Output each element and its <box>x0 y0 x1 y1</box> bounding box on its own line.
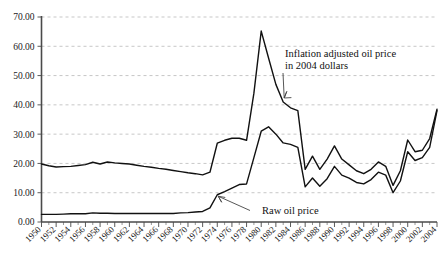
y-tick-label: 50.00 <box>13 71 35 81</box>
y-tick-label: 40.00 <box>13 100 35 110</box>
oil-price-chart: 0.0010.0020.0030.0040.0050.0060.0070.00 … <box>0 0 442 275</box>
y-tick-label: 30.00 <box>13 130 35 140</box>
y-tick-label: 70.00 <box>13 12 35 22</box>
inflation-adjusted-label-line2: in 2004 dollars <box>285 60 348 71</box>
y-tick-label: 60.00 <box>13 42 35 52</box>
raw-oil-price-label: Raw oil price <box>262 205 319 216</box>
y-tick-label: 20.00 <box>13 159 35 169</box>
chart-canvas: 0.0010.0020.0030.0040.0050.0060.0070.00 … <box>0 0 442 275</box>
inflation-adjusted-label-line1: Inflation adjusted oil price <box>285 48 396 59</box>
y-tick-label: 10.00 <box>13 188 35 198</box>
y-tick-label: 0.00 <box>18 217 35 227</box>
